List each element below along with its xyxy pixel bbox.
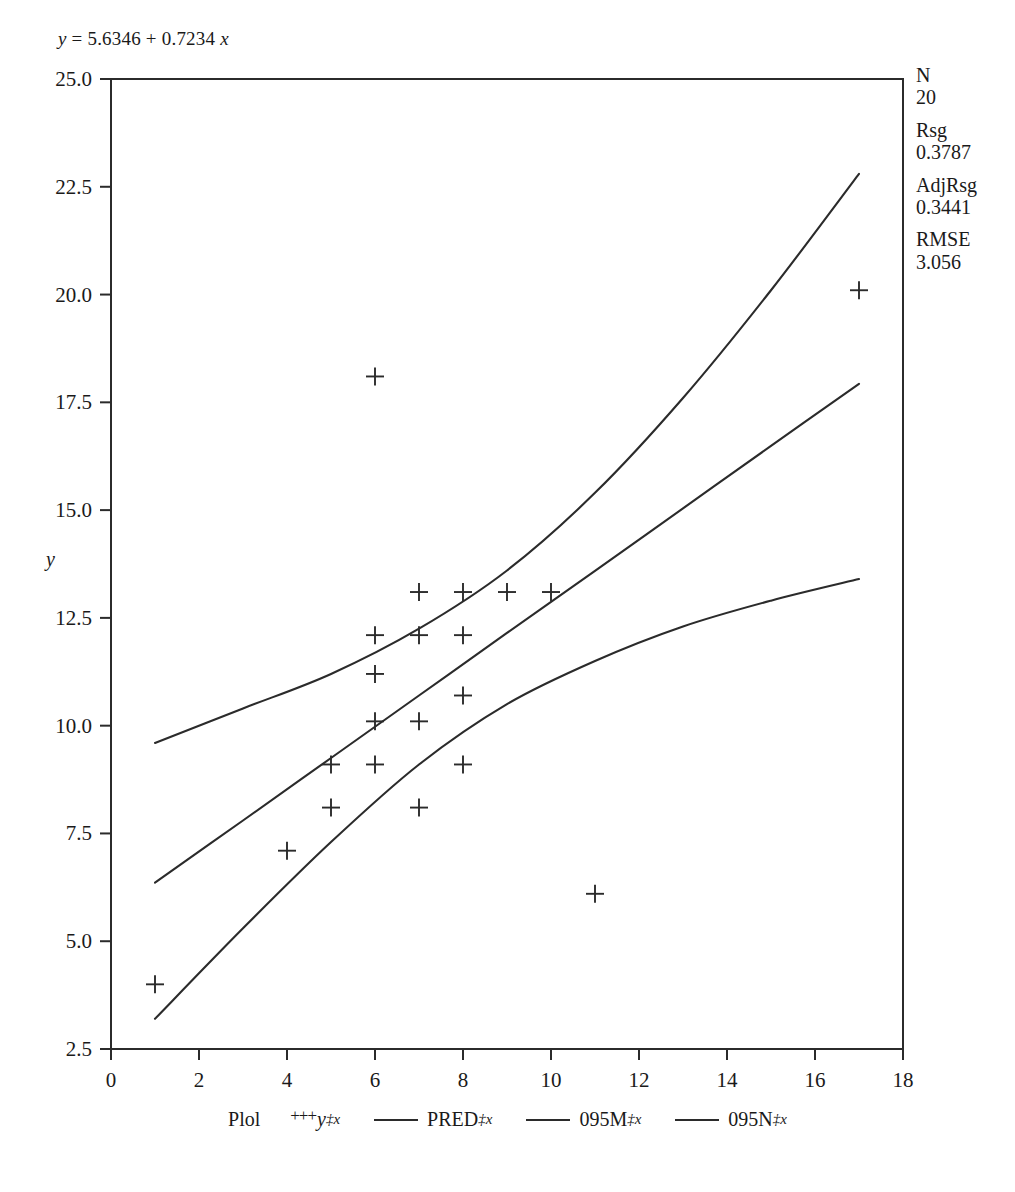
legend-title: Plol	[228, 1108, 260, 1131]
data-point-plus-icon	[366, 367, 384, 385]
data-point-plus-icon	[366, 755, 384, 773]
plot-canvas: 2.55.07.510.012.515.017.520.022.525.0024…	[0, 0, 1015, 1192]
data-point-plus-icon	[278, 842, 296, 860]
y-tick-label: 25.0	[55, 67, 92, 91]
data-point-plus-icon	[366, 626, 384, 644]
data-point-plus-icon	[410, 799, 428, 817]
legend-item-label: 095M	[579, 1108, 627, 1131]
data-point-plus-icon	[586, 885, 604, 903]
y-tick-label: 7.5	[66, 821, 92, 845]
data-point-plus-icon	[850, 281, 868, 299]
data-point-plus-icon	[454, 626, 472, 644]
line-swatch-icon	[374, 1119, 418, 1121]
x-tick-label: 6	[370, 1068, 381, 1092]
legend: Plol +++y‡xPRED‡x095M‡x095N‡x	[0, 1108, 1015, 1131]
stat-value: 0.3787	[916, 141, 1012, 163]
y-axis-label: y	[46, 548, 55, 571]
stat-label: Rsg	[916, 119, 1012, 141]
series-line-095n	[155, 579, 859, 1019]
data-point-plus-icon	[410, 712, 428, 730]
x-tick-label: 4	[282, 1068, 293, 1092]
line-swatch-icon	[675, 1119, 719, 1121]
x-tick-label: 18	[893, 1068, 914, 1092]
legend-item-095n: 095N‡x	[675, 1108, 787, 1131]
y-tick-label: 12.5	[55, 606, 92, 630]
x-tick-label: 2	[194, 1068, 205, 1092]
data-point-plus-icon	[322, 755, 340, 773]
stat-value: 3.056	[916, 251, 1012, 273]
regression-scatter-figure: y = 5.6346 + 0.7234 x 2.55.07.510.012.51…	[0, 0, 1015, 1192]
stat-label: AdjRsg	[916, 174, 1012, 196]
y-tick-label: 22.5	[55, 175, 92, 199]
legend-item-y: +++y‡x	[290, 1108, 340, 1131]
y-tick-label: 10.0	[55, 714, 92, 738]
legend-item-label: 095N	[728, 1108, 772, 1131]
data-points	[146, 281, 868, 993]
data-point-plus-icon	[146, 975, 164, 993]
legend-item-label: y	[317, 1108, 326, 1131]
plot-frame	[111, 79, 903, 1049]
data-point-plus-icon	[322, 799, 340, 817]
statistics-panel: N20Rsg0.3787AdjRsg0.3441RMSE3.056	[916, 64, 1012, 283]
series-line-pred	[155, 384, 859, 883]
x-tick-label: 0	[106, 1068, 117, 1092]
y-tick-label: 2.5	[66, 1037, 92, 1061]
stat-rsg: Rsg0.3787	[916, 119, 1012, 164]
x-tick-label: 16	[805, 1068, 826, 1092]
stat-label: N	[916, 64, 1012, 86]
stat-value: 0.3441	[916, 196, 1012, 218]
stat-rmse: RMSE3.056	[916, 228, 1012, 273]
data-point-plus-icon	[410, 626, 428, 644]
stat-label: RMSE	[916, 228, 1012, 250]
legend-item-sublabel: ‡x	[627, 1111, 641, 1128]
legend-item-pred: PRED‡x	[374, 1108, 492, 1131]
x-tick-label: 10	[541, 1068, 562, 1092]
data-point-plus-icon	[410, 583, 428, 601]
plus-marker-icon: +++	[290, 1106, 316, 1126]
x-tick-label: 14	[717, 1068, 739, 1092]
y-tick-label: 20.0	[55, 283, 92, 307]
legend-item-label: PRED	[427, 1108, 478, 1131]
stat-adjrsg: AdjRsg0.3441	[916, 174, 1012, 219]
y-tick-label: 17.5	[55, 390, 92, 414]
data-point-plus-icon	[366, 712, 384, 730]
x-tick-label: 8	[458, 1068, 469, 1092]
data-point-plus-icon	[454, 755, 472, 773]
data-point-plus-icon	[454, 686, 472, 704]
line-swatch-icon	[526, 1119, 570, 1121]
legend-item-sublabel: ‡x	[326, 1111, 340, 1128]
stat-value: 20	[916, 86, 1012, 108]
legend-item-sublabel: ‡x	[478, 1111, 492, 1128]
y-tick-label: 5.0	[66, 929, 92, 953]
x-tick-label: 12	[629, 1068, 650, 1092]
data-point-plus-icon	[498, 583, 516, 601]
legend-item-sublabel: ‡x	[773, 1111, 787, 1128]
y-tick-label: 15.0	[55, 498, 92, 522]
stat-n: N20	[916, 64, 1012, 109]
legend-item-095m: 095M‡x	[526, 1108, 641, 1131]
data-point-plus-icon	[366, 665, 384, 683]
